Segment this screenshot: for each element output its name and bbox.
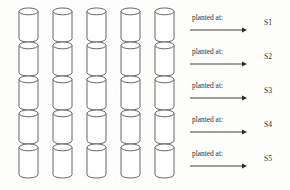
pot-cylinder	[53, 8, 72, 42]
cylinder-top-ellipse	[53, 110, 72, 117]
cylinder-body	[53, 147, 72, 178]
cylinder-top-ellipse	[53, 76, 72, 83]
pot-cylinder	[87, 110, 106, 144]
site-label: S3	[264, 86, 272, 95]
arrow-head	[242, 96, 247, 101]
cylinder-top-ellipse	[87, 144, 106, 151]
pot-column	[53, 8, 72, 178]
pot-column	[19, 8, 38, 178]
planting-row: planted at:S3	[190, 81, 272, 100]
pot-cylinder	[121, 42, 140, 76]
cylinder-top-ellipse	[19, 76, 38, 83]
planting-row: planted at:S1	[190, 13, 272, 32]
cylinder-body	[121, 79, 140, 110]
cylinder-top-ellipse	[19, 144, 38, 151]
cylinder-body	[155, 45, 174, 76]
pot-cylinder	[53, 144, 72, 178]
planted-at-label: planted at:	[192, 13, 223, 22]
cylinder-body	[155, 113, 174, 144]
cylinder-top-ellipse	[155, 76, 174, 83]
site-label: S2	[264, 52, 272, 61]
planted-at-label: planted at:	[192, 115, 223, 124]
cylinder-body	[155, 147, 174, 178]
pot-cylinder	[19, 42, 38, 76]
cylinder-body	[87, 79, 106, 110]
cylinder-top-ellipse	[19, 8, 38, 15]
pot-column	[121, 8, 140, 178]
planted-at-label: planted at:	[192, 47, 223, 56]
cylinder-body	[53, 113, 72, 144]
pot-cylinder	[121, 144, 140, 178]
cylinder-body	[53, 79, 72, 110]
cylinder-top-ellipse	[155, 8, 174, 15]
cylinder-body	[19, 113, 38, 144]
cylinder-top-ellipse	[121, 8, 140, 15]
cylinder-top-ellipse	[53, 42, 72, 49]
cylinder-body	[53, 45, 72, 76]
cylinder-body	[121, 45, 140, 76]
pot-cylinder	[155, 144, 174, 178]
pot-cylinder	[53, 76, 72, 110]
pot-cylinder	[121, 76, 140, 110]
cylinder-top-ellipse	[19, 42, 38, 49]
cylinder-top-ellipse	[19, 110, 38, 117]
arrow-head	[242, 62, 247, 67]
cylinder-top-ellipse	[155, 144, 174, 151]
cylinder-top-ellipse	[121, 144, 140, 151]
cylinder-body	[87, 113, 106, 144]
cylinder-body	[121, 113, 140, 144]
pot-cylinder	[155, 110, 174, 144]
cylinder-body	[121, 11, 140, 42]
cylinder-top-ellipse	[87, 76, 106, 83]
pot-cylinder	[19, 110, 38, 144]
arrow-head	[242, 164, 247, 169]
cylinder-top-ellipse	[155, 110, 174, 117]
pot-cylinder	[19, 76, 38, 110]
cylinder-body	[19, 147, 38, 178]
planting-arrow-rows: planted at:S1planted at:S2planted at:S3p…	[190, 13, 272, 168]
site-label: S1	[264, 18, 272, 27]
cylinder-top-ellipse	[87, 42, 106, 49]
pot-cylinder	[87, 144, 106, 178]
pot-grid-diagram: planted at:S1planted at:S2planted at:S3p…	[0, 0, 290, 190]
cylinder-top-ellipse	[87, 8, 106, 15]
site-label: S5	[264, 154, 272, 163]
cylinder-body	[121, 147, 140, 178]
pot-cylinder	[155, 8, 174, 42]
cylinder-body	[53, 11, 72, 42]
arrow-head	[242, 28, 247, 33]
pot-cylinder	[53, 42, 72, 76]
planting-row: planted at:S2	[190, 47, 272, 66]
cylinder-top-ellipse	[121, 76, 140, 83]
site-label: S4	[264, 120, 272, 129]
cylinder-top-ellipse	[53, 144, 72, 151]
pot-column	[87, 8, 106, 178]
cylinder-body	[87, 45, 106, 76]
cylinder-top-ellipse	[121, 110, 140, 117]
pot-column	[155, 8, 174, 178]
arrow-head	[242, 130, 247, 135]
pot-cylinder	[121, 110, 140, 144]
cylinder-body	[19, 45, 38, 76]
pot-cylinder	[53, 110, 72, 144]
cylinder-grid	[19, 8, 174, 178]
cylinder-top-ellipse	[155, 42, 174, 49]
pot-cylinder	[87, 8, 106, 42]
cylinder-top-ellipse	[121, 42, 140, 49]
cylinder-body	[155, 79, 174, 110]
cylinder-body	[87, 11, 106, 42]
pot-cylinder	[87, 42, 106, 76]
cylinder-top-ellipse	[53, 8, 72, 15]
planted-at-label: planted at:	[192, 149, 223, 158]
pot-cylinder	[155, 76, 174, 110]
pot-cylinder	[87, 76, 106, 110]
planting-row: planted at:S5	[190, 149, 272, 168]
planting-row: planted at:S4	[190, 115, 272, 134]
cylinder-body	[155, 11, 174, 42]
pot-cylinder	[19, 144, 38, 178]
pot-cylinder	[121, 8, 140, 42]
planted-at-label: planted at:	[192, 81, 223, 90]
cylinder-top-ellipse	[87, 110, 106, 117]
cylinder-body	[19, 79, 38, 110]
cylinder-body	[19, 11, 38, 42]
